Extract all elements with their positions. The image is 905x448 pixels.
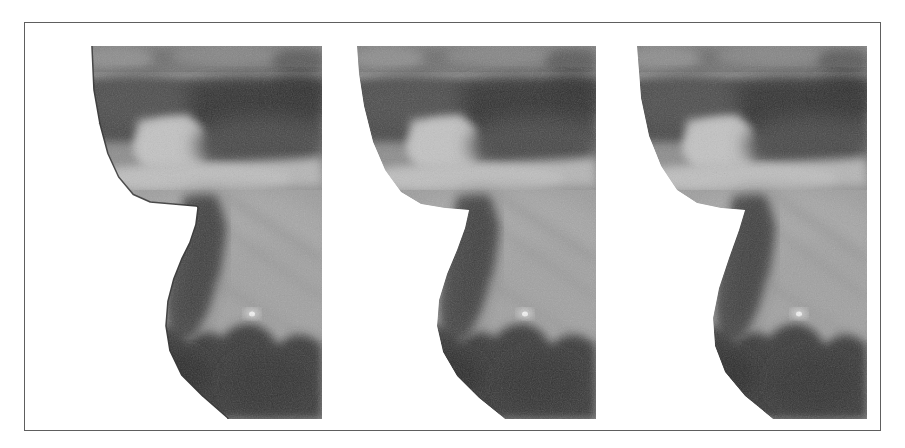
panel-left <box>76 46 322 419</box>
panel-right <box>621 46 867 419</box>
figure-frame <box>24 22 881 431</box>
panel-left-image <box>76 46 322 419</box>
panel-center-image <box>347 46 596 419</box>
figure-root <box>0 0 905 448</box>
panel-center <box>347 46 596 419</box>
panel-right-image <box>621 46 867 419</box>
figure-caption <box>24 434 881 446</box>
